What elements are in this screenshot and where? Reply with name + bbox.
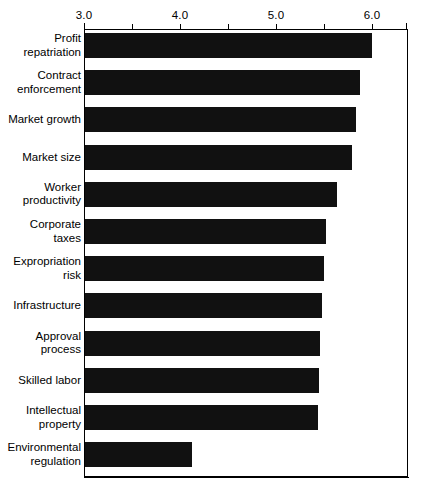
x-axis-tick-label: 3.0 bbox=[76, 9, 92, 22]
bar bbox=[85, 219, 326, 244]
bar-row: Approval process bbox=[0, 328, 421, 365]
bar bbox=[85, 182, 337, 207]
x-axis-tick-label: 6.0 bbox=[364, 9, 380, 22]
bar-row: Skilled labor bbox=[0, 365, 421, 402]
bar-row: Intellectual property bbox=[0, 402, 421, 439]
bar-rows-container: Profit repatriationContract enforcementM… bbox=[0, 30, 421, 477]
bar-row: Market growth bbox=[0, 104, 421, 141]
bar-row: Environmental regulation bbox=[0, 439, 421, 476]
bar-category-label: Infrastructure bbox=[0, 299, 81, 313]
bar bbox=[85, 145, 352, 170]
bar-category-label: Profit repatriation bbox=[0, 32, 81, 59]
bar-category-label: Intellectual property bbox=[0, 404, 81, 431]
bar-row: Market size bbox=[0, 142, 421, 179]
bar-category-label: Market size bbox=[0, 151, 81, 165]
bar-category-label: Worker productivity bbox=[0, 181, 81, 208]
bottom-axis-rule bbox=[84, 477, 409, 478]
bar bbox=[85, 405, 318, 430]
bar bbox=[85, 293, 322, 318]
x-axis-tick-label: 4.0 bbox=[172, 9, 188, 22]
bar-row: Expropriation risk bbox=[0, 253, 421, 290]
bar bbox=[85, 256, 324, 281]
bar-category-label: Approval process bbox=[0, 330, 81, 357]
bar-category-label: Market growth bbox=[0, 113, 81, 127]
bar-category-label: Skilled labor bbox=[0, 374, 81, 388]
bar-category-label: Environmental regulation bbox=[0, 441, 81, 468]
bar-row: Infrastructure bbox=[0, 290, 421, 327]
x-axis-tick-label: 5.0 bbox=[268, 9, 284, 22]
horizontal-bar-chart: 3.04.05.06.0 Profit repatriationContract… bbox=[0, 0, 421, 490]
bar bbox=[85, 107, 356, 132]
bar-category-label: Corporate taxes bbox=[0, 218, 81, 245]
bar bbox=[85, 33, 372, 58]
bar bbox=[85, 331, 320, 356]
bar-category-label: Expropriation risk bbox=[0, 255, 81, 282]
bar bbox=[85, 70, 360, 95]
bar-category-label: Contract enforcement bbox=[0, 69, 81, 96]
x-axis-tick-labels: 3.04.05.06.0 bbox=[0, 9, 421, 25]
bar-row: Contract enforcement bbox=[0, 67, 421, 104]
bar bbox=[85, 368, 319, 393]
bar bbox=[85, 442, 192, 467]
bar-row: Worker productivity bbox=[0, 179, 421, 216]
bar-row: Profit repatriation bbox=[0, 30, 421, 67]
bar-row: Corporate taxes bbox=[0, 216, 421, 253]
